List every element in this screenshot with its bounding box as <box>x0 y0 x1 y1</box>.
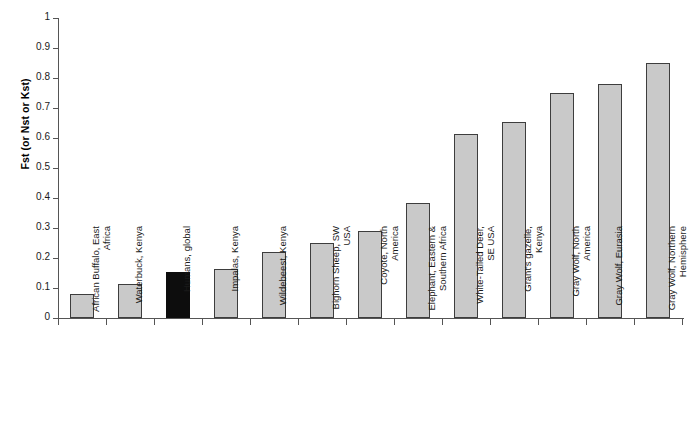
x-tick-mark <box>298 318 299 325</box>
y-tick-label: 0.8 <box>36 71 50 83</box>
y-tick-label: 0 <box>44 311 50 323</box>
y-tick-label: 0.4 <box>36 191 50 203</box>
y-tick-label: 0.1 <box>36 281 50 293</box>
y-tick-mark <box>53 198 59 199</box>
y-tick-mark <box>53 138 59 139</box>
x-tick-mark <box>154 318 155 325</box>
y-tick-label: 0.7 <box>36 101 50 113</box>
bar-chart-figure: Fst (or Nst or Kst) 10.90.80.70.60.50.40… <box>0 0 690 435</box>
x-axis-label: Impalas, Kenya <box>229 226 240 326</box>
x-axis-label: Gray Wolf, NorthAmerica <box>570 226 592 326</box>
y-tick-mark <box>53 168 59 169</box>
y-tick-mark <box>53 78 59 79</box>
y-tick-label: 0.6 <box>36 131 50 143</box>
x-axis-label: Humans, global <box>181 226 192 326</box>
x-axis-label: Waterbuck, Kenya <box>133 226 144 326</box>
x-axis-label: Grant's gazelle,Kenya <box>522 226 544 326</box>
y-tick-label: 0.2 <box>36 251 50 263</box>
x-tick-mark <box>634 318 635 325</box>
y-tick-mark <box>53 258 59 259</box>
x-axis-label: Elephant, Eastern &Southern Africa <box>426 226 448 326</box>
y-axis-title: Fst (or Nst or Kst) <box>19 54 31 194</box>
y-tick-mark <box>53 288 59 289</box>
x-axis-label: Wildebeest, Kenya <box>277 226 288 326</box>
y-tick-label: 0.3 <box>36 221 50 233</box>
x-axis-label: Gray Wolf, Eurasia <box>613 226 624 326</box>
y-tick-mark <box>53 48 59 49</box>
y-tick-label: 0.9 <box>36 41 50 53</box>
x-axis-label: White-Tailed Deer,SE USA <box>474 226 496 326</box>
y-tick-mark <box>53 18 59 19</box>
x-axis-label: Gray Wolf, NorthernHemisphere <box>666 226 688 326</box>
y-tick-mark <box>53 108 59 109</box>
y-tick-mark <box>53 228 59 229</box>
x-tick-mark <box>250 318 251 325</box>
x-tick-mark <box>58 318 59 325</box>
y-tick-label: 1 <box>44 11 50 23</box>
y-tick-label: 0.5 <box>36 161 50 173</box>
x-tick-mark <box>202 318 203 325</box>
x-axis-label: Coyote, NorthAmerica <box>378 226 400 326</box>
x-axis-label: African Buffalo, EastAfrica <box>90 226 112 326</box>
x-axis-label: Bighorn Sheep, SWUSA <box>330 226 352 326</box>
